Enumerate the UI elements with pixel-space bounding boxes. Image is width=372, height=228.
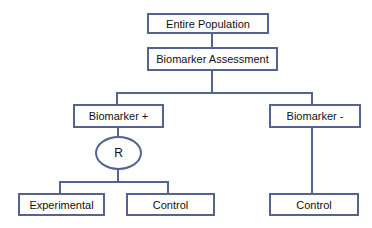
biomarker-assessment-node: Biomarker Assessment <box>147 47 278 71</box>
biomarker-negative-node: Biomarker - <box>269 104 361 128</box>
experimental-arm-node: Experimental <box>18 193 105 216</box>
randomization-node: R <box>95 136 142 170</box>
control-arm-negative-node: Control <box>269 193 359 216</box>
biomarker-positive-node: Biomarker + <box>73 104 164 128</box>
control-arm-positive-node: Control <box>126 193 215 216</box>
entire-population-node: Entire Population <box>147 13 269 34</box>
